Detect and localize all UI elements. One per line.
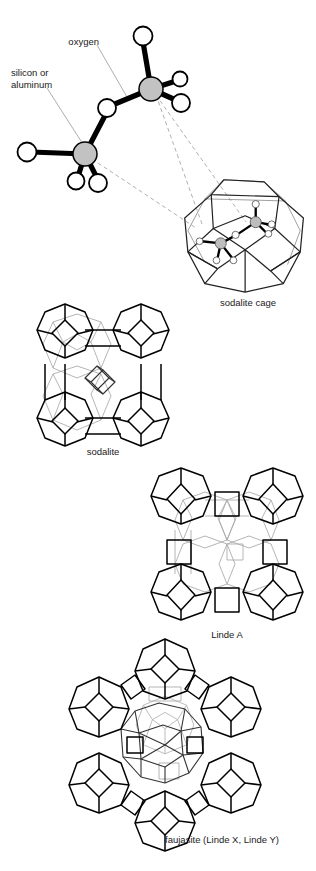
projection-line-upper-b [156, 95, 202, 224]
oxygen-atom-small [268, 221, 275, 228]
sodalite-cage-caption: sodalite cage [220, 297, 276, 308]
oxygen-atom-small [265, 230, 272, 237]
oxygen-leader-line [97, 45, 127, 97]
projection-line-lower [98, 163, 196, 228]
zeolite-figure: oxygen silicon or aluminum [0, 0, 316, 871]
linked-tetrahedra-diagram: oxygen silicon or aluminum [11, 27, 246, 229]
linde-a-caption: Linde A [211, 629, 243, 640]
faujasite-framework-diagram: faujasite (Linde X, Linde Y) [69, 639, 279, 851]
silicon-label-line2: aluminum [11, 79, 52, 90]
sodalite-caption: sodalite [87, 446, 120, 457]
cage-embedded-tetrahedra [196, 201, 275, 264]
cage-front-edges [185, 180, 304, 292]
oxygen-atom-small [232, 231, 239, 238]
silicon-aluminum-atom [73, 142, 97, 166]
sodalite-shared-square-faces [45, 330, 161, 434]
oxygen-atom-small [213, 257, 220, 264]
faujasite-caption: faujasite (Linde X, Linde Y) [165, 834, 279, 845]
oxygen-atom [89, 174, 107, 192]
oxygen-atom-small [230, 257, 237, 264]
silicon-label-line1: silicon or [11, 67, 49, 78]
silicon-aluminum-atom-small [215, 238, 226, 249]
oxygen-atom-bridging [98, 99, 116, 117]
oxygen-label: oxygen [68, 36, 99, 47]
oxygen-atom [18, 143, 37, 162]
oxygen-atom [134, 27, 153, 46]
oxygen-atom-small [252, 201, 259, 208]
faujasite-supercage-window [121, 703, 203, 783]
sodalite-framework-diagram: sodalite [37, 304, 169, 457]
sodalite-front-cages [37, 304, 169, 446]
silicon-aluminum-atom [139, 77, 163, 101]
oxygen-atom [173, 72, 188, 87]
figure-canvas: oxygen silicon or aluminum [0, 0, 316, 871]
faujasite-back-cages [136, 687, 194, 779]
oxygen-atom [172, 94, 190, 112]
cage-back-edges [188, 180, 300, 265]
oxygen-atom [68, 173, 85, 190]
silicon-aluminum-atom-small [250, 217, 261, 228]
sodalite-cage-diagram: sodalite cage [185, 180, 304, 308]
oxygen-atom-small [196, 238, 203, 245]
linde-a-framework-diagram: Linde A [151, 468, 303, 640]
